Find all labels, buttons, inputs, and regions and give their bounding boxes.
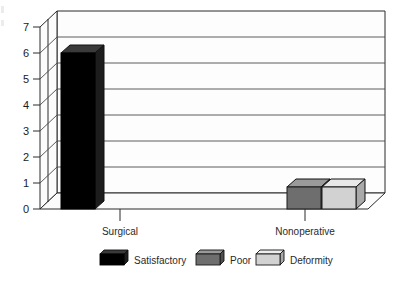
y-tick-label-2: 2 <box>23 151 29 163</box>
y-tick-label-7: 7 <box>23 21 29 33</box>
bar-front-face <box>287 187 321 209</box>
bar-front-face <box>61 53 95 209</box>
legend-swatch-deformity <box>256 254 280 265</box>
y-tick-label-5: 5 <box>23 73 29 85</box>
x-category-label-nonoperative: Nonoperative <box>275 226 335 237</box>
y-tick-label-1: 1 <box>23 177 29 189</box>
bar-side-face <box>95 45 104 209</box>
bar-chart-figure: 7 6 5 4 3 2 1 0 <box>0 0 411 287</box>
scan-artifact <box>1 6 4 26</box>
bar-nonoperative-deformity <box>322 179 365 209</box>
bar-group-surgical <box>61 45 104 209</box>
y-axis-ticks <box>33 27 40 209</box>
bar-group-nonoperative <box>287 179 365 209</box>
legend-label-poor: Poor <box>230 255 252 266</box>
x-axis-ticks <box>120 209 305 221</box>
legend: Satisfactory Poor Deformity <box>100 250 333 266</box>
legend-swatch-poor <box>196 254 220 265</box>
x-axis-category-labels: Surgical Nonoperative <box>102 226 335 237</box>
legend-label-satisfactory: Satisfactory <box>134 255 186 266</box>
x-category-label-surgical: Surgical <box>102 226 138 237</box>
legend-item-satisfactory[interactable]: Satisfactory <box>100 250 186 266</box>
y-tick-label-6: 6 <box>23 47 29 59</box>
legend-swatch-satisfactory <box>100 254 124 265</box>
back-wall <box>57 11 385 193</box>
y-tick-label-0: 0 <box>23 203 29 215</box>
chart-canvas: 7 6 5 4 3 2 1 0 <box>0 0 411 287</box>
y-tick-label-3: 3 <box>23 125 29 137</box>
legend-item-deformity[interactable]: Deformity <box>256 250 333 266</box>
legend-swatch-top <box>256 250 284 254</box>
bar-surgical-satisfactory <box>61 45 104 209</box>
bar-front-face <box>322 187 356 209</box>
legend-swatch-top <box>100 250 128 254</box>
legend-swatch-top <box>196 250 224 254</box>
y-tick-label-4: 4 <box>23 99 29 111</box>
legend-label-deformity: Deformity <box>290 255 333 266</box>
legend-item-poor[interactable]: Poor <box>196 250 252 266</box>
y-axis-tick-labels: 7 6 5 4 3 2 1 0 <box>23 21 29 215</box>
